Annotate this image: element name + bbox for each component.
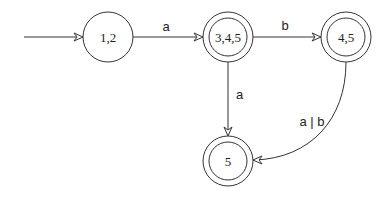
- dfa-diagram: a b a a | b 1,2 3,4,5 4,5 5: [0, 0, 387, 198]
- transition-s45-s5: a | b: [253, 62, 346, 164]
- transition-label: b: [281, 18, 288, 33]
- state-4-5: 4,5: [321, 12, 371, 62]
- transition-label: a | b: [299, 114, 324, 129]
- transition-s345-s45: b: [253, 18, 321, 41]
- state-label: 5: [225, 154, 232, 169]
- transition-label: a: [162, 19, 170, 34]
- state-label: 1,2: [100, 30, 116, 45]
- transition-label: a: [236, 87, 244, 102]
- transition-s345-s5: a: [224, 62, 244, 136]
- state-5: 5: [203, 136, 253, 186]
- start-arrow: [24, 33, 83, 41]
- state-3-4-5: 3,4,5: [203, 12, 253, 62]
- transition-s12-s345: a: [133, 19, 203, 41]
- state-1-2: 1,2: [83, 12, 133, 62]
- state-label: 4,5: [338, 30, 354, 45]
- state-label: 3,4,5: [215, 30, 241, 45]
